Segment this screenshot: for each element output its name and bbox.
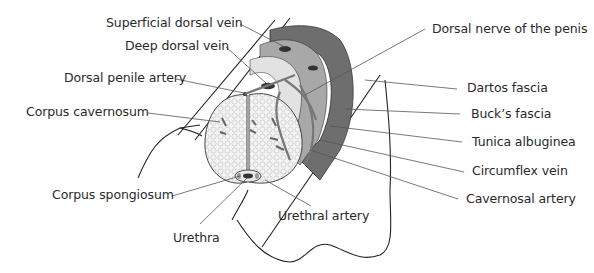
label-corpus-cavernosum: Corpus cavernosum [26, 106, 149, 119]
corpora-cavernosa [205, 94, 302, 184]
label-urethra: Urethra [173, 232, 220, 245]
label-circumflex-vein: Circumflex vein [472, 165, 568, 178]
label-dorsal-penile-artery: Dorsal penile artery [64, 72, 186, 85]
label-corpus-spongiosum: Corpus spongiosum [52, 189, 174, 202]
label-deep-dorsal-vein: Deep dorsal vein [125, 40, 229, 53]
label-dartos-fascia: Dartos fascia [467, 82, 548, 95]
label-cavernosal-artery: Cavernosal artery [466, 193, 576, 206]
label-dorsal-nerve: Dorsal nerve of the penis [432, 23, 587, 36]
label-tunica-albuginea: Tunica albuginea [472, 136, 576, 149]
label-superficial-dorsal-vein: Superficial dorsal vein [106, 17, 242, 30]
label-bucks-fascia: Buck’s fascia [471, 108, 551, 121]
label-urethral-artery: Urethral artery [278, 210, 369, 223]
